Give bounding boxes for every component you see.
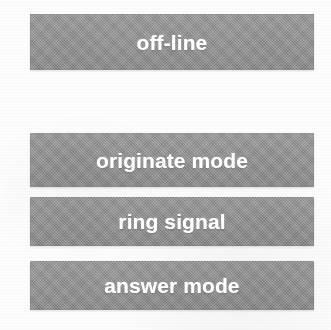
status-bar-off-line[interactable]: off-line bbox=[30, 14, 314, 70]
status-bar-answer-mode[interactable]: answer mode bbox=[30, 261, 314, 310]
scanned-page-background: off-line originate mode ring signal answ… bbox=[0, 0, 331, 330]
status-bar-label: off-line bbox=[137, 32, 208, 53]
status-bar-label: answer mode bbox=[104, 275, 239, 296]
status-bar-ring-signal[interactable]: ring signal bbox=[30, 197, 314, 246]
status-bar-originate-mode[interactable]: originate mode bbox=[30, 133, 314, 187]
status-bar-label: ring signal bbox=[118, 211, 225, 232]
status-bar-label: originate mode bbox=[96, 150, 248, 171]
